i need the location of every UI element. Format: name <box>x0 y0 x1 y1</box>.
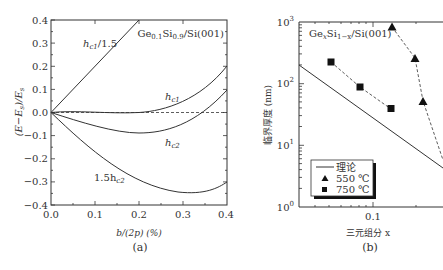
y-tick-labels-b: 103 102 101 100 <box>277 15 294 213</box>
y-axis-label-a: (E−Es)/Es <box>13 87 26 136</box>
panel-a: 0.4 0.3 0.2 0.1 0.0 −0.1 −0.2 −0.3 −0.4 … <box>13 15 234 255</box>
x-tick-label: 0.1 <box>365 211 381 222</box>
y-tick-label: 102 <box>277 76 294 89</box>
y-tick-label: 100 <box>277 200 294 213</box>
dashed-fit-550 <box>392 27 443 160</box>
x-axis-label-b: 三元组分 x <box>346 227 390 238</box>
theory-line <box>299 65 443 168</box>
curve-hc1-over-1.5 <box>51 20 139 113</box>
triangle-marker <box>411 54 420 62</box>
square-marker <box>328 59 335 66</box>
label-hc2: hc2 <box>165 137 180 150</box>
x-tick-labels-a: 0.0 0.1 0.2 0.3 0.4 <box>43 209 234 220</box>
x-tick-label: 0.3 <box>175 209 191 220</box>
legend-square-icon <box>322 187 327 192</box>
panel-b: 103 102 101 100 0.1 GexSi1−x/Si(001) <box>262 15 443 255</box>
markers-550 <box>388 23 428 106</box>
x-axis-label-a: b/(2p) (%) <box>116 228 162 238</box>
y-tick-label: 101 <box>277 138 294 151</box>
y-tick-label: 0.1 <box>32 84 48 95</box>
x-tick-label: 0.0 <box>43 209 59 220</box>
markers-750 <box>328 59 395 113</box>
caption-b: (b) <box>362 241 378 254</box>
y-tick-label: 103 <box>277 15 294 28</box>
x-tick-label: 0.1 <box>87 209 103 220</box>
x-tick-label: 0.4 <box>218 209 234 220</box>
y-tick-label: 0.2 <box>32 61 48 72</box>
label-hc1: hc1 <box>165 91 180 104</box>
y-tick-label: 0.4 <box>32 15 48 26</box>
legend-550-label: 550 ℃ <box>336 173 369 184</box>
y-axis-label-b: 临界厚度 (nm) <box>262 85 273 145</box>
y-tick-labels-a: 0.4 0.3 0.2 0.1 0.0 −0.1 −0.2 −0.3 −0.4 <box>24 15 48 211</box>
y-tick-label: −0.2 <box>24 153 48 164</box>
panel-b-title: GexSi1−x/Si(001) <box>309 28 392 41</box>
y-tick-label: −0.1 <box>24 130 48 141</box>
y-ticks-b <box>299 25 304 189</box>
square-marker <box>388 105 395 112</box>
figure-canvas: 0.4 0.3 0.2 0.1 0.0 −0.1 −0.2 −0.3 −0.4 … <box>0 0 443 270</box>
square-marker <box>357 84 364 91</box>
panel-a-title: Ge0.1Si0.9/Si(001) <box>137 28 224 41</box>
y-tick-label: −0.3 <box>24 176 48 187</box>
label-1.5hc2: 1.5hc2 <box>94 172 125 185</box>
caption-a: (a) <box>132 241 147 254</box>
triangle-marker <box>419 97 428 105</box>
y-tick-label: 0.3 <box>32 38 48 49</box>
curve-1.5hc2 <box>51 113 227 193</box>
y-tick-label: 0.0 <box>32 107 48 118</box>
curves-a <box>51 20 227 193</box>
legend: 理论 550 ℃ 750 ℃ <box>311 160 376 199</box>
legend-750-label: 750 ℃ <box>336 184 369 195</box>
curve-hc1 <box>51 66 227 113</box>
x-tick-label: 0.2 <box>131 209 147 220</box>
legend-theory-label: 理论 <box>336 161 356 173</box>
